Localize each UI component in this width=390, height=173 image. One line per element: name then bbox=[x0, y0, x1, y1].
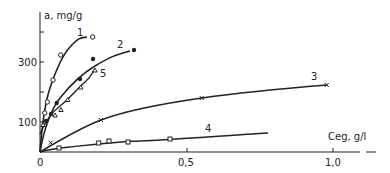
chart-canvas: a, mg/g Ceg, g/l 300 100 0 0,5 1,0 1 2 bbox=[0, 0, 390, 173]
x-tick-label-0: 0 bbox=[37, 157, 43, 168]
y-tick-label-100: 100 bbox=[18, 117, 37, 128]
curve-2-label: 2 bbox=[117, 39, 123, 50]
y-tick-label-300: 300 bbox=[18, 57, 37, 68]
curve-3-label: 3 bbox=[311, 71, 317, 82]
curve-3-line bbox=[40, 85, 327, 152]
curve-3-markers bbox=[49, 83, 329, 145]
y-axis-label: a, mg/g bbox=[44, 10, 82, 21]
curve-4-line bbox=[40, 133, 268, 152]
curve-1-markers bbox=[43, 35, 95, 115]
x-ticks bbox=[187, 148, 333, 152]
adsorption-isotherm-chart: a, mg/g Ceg, g/l 300 100 0 0,5 1,0 1 2 bbox=[0, 0, 390, 173]
curve-2-line bbox=[40, 51, 130, 152]
x-tick-label-1-0: 1,0 bbox=[325, 157, 341, 168]
x-tick-label-0-5: 0,5 bbox=[178, 157, 194, 168]
y-ticks bbox=[40, 32, 44, 122]
curve-5-label: 5 bbox=[100, 68, 106, 79]
curve-1-label: 1 bbox=[77, 27, 83, 38]
curve-2-markers bbox=[44, 48, 136, 123]
curve-4-markers bbox=[57, 137, 172, 150]
curve-4-label: 4 bbox=[205, 123, 211, 134]
x-axis-label: Ceg, g/l bbox=[328, 131, 366, 142]
